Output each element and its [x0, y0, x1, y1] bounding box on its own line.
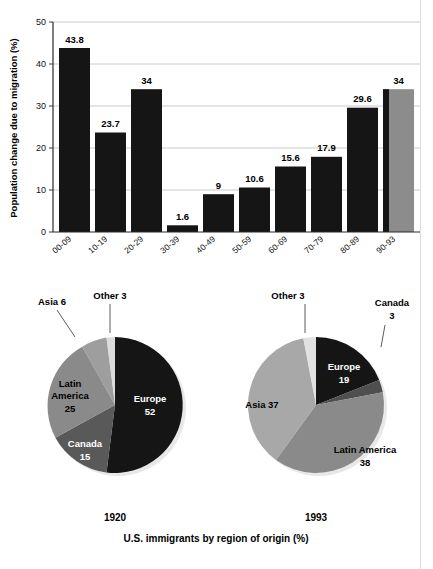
bar-value-30-39: 1.6: [176, 211, 189, 222]
figure-container: Population change due to migration (%) 5…: [0, 0, 433, 569]
y-tick-labels: 50 40 30 20 10 0: [36, 17, 46, 237]
y-tick-20: 20: [36, 143, 46, 153]
bar-60-69: [275, 167, 306, 233]
bar-value-00-09: 43.8: [65, 34, 84, 45]
pie-1993-value-europe: 19: [339, 374, 350, 385]
pie-1920-label-other: Other 3: [93, 290, 126, 301]
pie-1993-value-latin-america: 38: [360, 457, 371, 468]
y-tick-40: 40: [36, 59, 46, 69]
pie-1993: Europe 19 Latin America 38 Asia 37 Other…: [245, 290, 410, 523]
x-label-80-89: 80-89: [338, 234, 361, 256]
pie-1920-leader-asia: [57, 310, 75, 337]
y-tick-10: 10: [36, 185, 46, 195]
bar-50-59: [239, 188, 270, 233]
bar-chart-svg: Population change due to migration (%) 5…: [0, 0, 433, 285]
x-label-90-93: 90-93: [374, 234, 397, 256]
bar-value-40-49: 9: [216, 180, 221, 191]
bar-10-19: [95, 133, 126, 233]
y-tick-30: 30: [36, 101, 46, 111]
pie-1920-label-europe: Europe: [134, 393, 167, 404]
x-label-40-49: 40-49: [194, 234, 217, 256]
bar-chart-panel: Population change due to migration (%) 5…: [0, 0, 433, 285]
bar-value-60-69: 15.6: [281, 152, 300, 163]
x-label-00-09: 00-09: [50, 234, 73, 256]
figure-caption: U.S. immigrants by region of origin (%): [123, 533, 308, 544]
pie-1993-year: 1993: [305, 512, 328, 523]
pie-charts-panel: Europe 52 Canada 15 Latin America 25 Asi…: [0, 285, 433, 569]
y-tick-50: 50: [36, 17, 46, 27]
y-axis-title: Population change due to migration (%): [8, 38, 19, 217]
bar-value-50-59: 10.6: [245, 173, 264, 184]
bar-90-93-edge: [383, 89, 389, 232]
bar-00-09: [59, 48, 90, 232]
bar-40-49: [203, 194, 234, 232]
pie-1993-label-canada-line1: Canada: [375, 297, 410, 308]
bar-70-79: [311, 157, 342, 232]
pie-1920-label-asia: Asia 6: [38, 296, 66, 307]
pie-1993-label-other: Other 3: [271, 290, 304, 301]
pie-1920-label-latin-america-line1: Latin: [59, 378, 82, 389]
pie-1920-label-canada: Canada: [68, 438, 103, 449]
x-category-labels: 00-09 10-19 20-29 30-39 40-49 50-59 60-6…: [50, 234, 397, 256]
x-label-10-19: 10-19: [86, 234, 109, 256]
pie-1993-label-canada-line2: 3: [389, 310, 394, 321]
bar-value-70-79: 17.9: [317, 142, 336, 153]
pie-1920-label-latin-america-line2: America: [51, 390, 89, 401]
y-tick-0: 0: [41, 227, 46, 237]
pie-1993-label-europe: Europe: [328, 361, 361, 372]
x-label-20-29: 20-29: [122, 234, 145, 256]
bars-group: [59, 48, 414, 232]
bar-value-10-19: 23.7: [101, 118, 120, 129]
x-label-60-69: 60-69: [266, 234, 289, 256]
pie-1993-leader-canada: [381, 325, 385, 347]
bar-20-29: [131, 89, 162, 232]
x-label-70-79: 70-79: [302, 234, 325, 256]
pie-1920-value-europe: 52: [145, 406, 156, 417]
pie-1920-value-canada: 15: [80, 451, 91, 462]
bar-value-20-29: 34: [141, 75, 152, 86]
pie-1920-year: 1920: [104, 512, 127, 523]
bar-30-39: [167, 225, 198, 232]
x-label-50-59: 50-59: [230, 234, 253, 256]
bar-value-90-93: 34: [393, 75, 404, 86]
pie-1920-slice-europe: [107, 337, 183, 473]
pie-1920: Europe 52 Canada 15 Latin America 25 Asi…: [38, 290, 186, 523]
bar-80-89: [347, 108, 378, 232]
pie-1920-value-latin-america: 25: [65, 403, 76, 414]
x-label-30-39: 30-39: [158, 234, 181, 256]
bar-value-80-89: 29.6: [353, 93, 372, 104]
pie-1993-label-latin-america: Latin America: [334, 444, 397, 455]
pie-1993-label-asia: Asia 37: [245, 399, 278, 410]
pie-charts-svg: Europe 52 Canada 15 Latin America 25 Asi…: [0, 285, 433, 569]
